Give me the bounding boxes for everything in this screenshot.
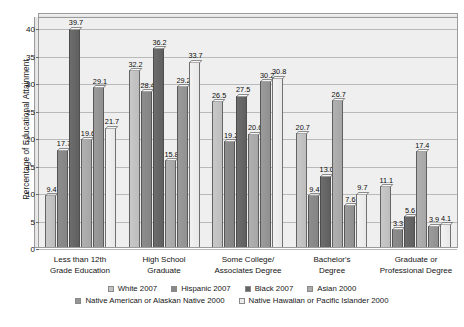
category-label-line: Graduate or bbox=[374, 255, 458, 266]
bar-group: 11.13.35.617.43.94.1 bbox=[373, 18, 457, 247]
bar-value-label: 3.9 bbox=[429, 216, 439, 223]
bar[interactable]: 9.7 bbox=[356, 194, 367, 247]
bar[interactable]: 15.8 bbox=[165, 160, 176, 247]
bar-value-label: 30.8 bbox=[272, 68, 286, 75]
y-axis-tick-mark bbox=[36, 249, 39, 250]
bar-slot: 26.5 bbox=[212, 18, 223, 247]
bar-group: 26.519.227.520.630.230.8 bbox=[206, 18, 290, 247]
bar-slot: 39.7 bbox=[69, 18, 80, 247]
x-axis-category-label: High SchoolGraduate bbox=[122, 255, 206, 281]
bar[interactable]: 13.0 bbox=[320, 176, 331, 248]
bar[interactable]: 9.4 bbox=[308, 195, 319, 247]
bar[interactable]: 39.7 bbox=[69, 29, 80, 247]
legend-swatch-icon bbox=[75, 298, 81, 304]
y-axis-tick-label: 30 bbox=[26, 80, 35, 89]
bar-slot: 9.4 bbox=[45, 18, 56, 247]
bar-slot: 4.1 bbox=[440, 18, 451, 247]
bar-slot: 20.7 bbox=[296, 18, 307, 247]
y-axis-tick-label: 35 bbox=[26, 52, 35, 61]
y-axis-tick-label: 0 bbox=[31, 245, 35, 254]
bar-slot: 33.7 bbox=[189, 18, 200, 247]
y-axis-tick-label: 40 bbox=[26, 25, 35, 34]
bar[interactable]: 5.6 bbox=[404, 216, 415, 247]
bar[interactable]: 17.4 bbox=[416, 151, 427, 247]
bar[interactable]: 20.7 bbox=[296, 133, 307, 247]
bar-slot: 20.6 bbox=[248, 18, 259, 247]
bar[interactable]: 26.5 bbox=[212, 101, 223, 247]
x-axis-category-label: Bachelor'sDegree bbox=[290, 255, 374, 281]
bar[interactable]: 21.7 bbox=[105, 128, 116, 247]
bar[interactable]: 33.7 bbox=[189, 62, 200, 247]
bar-groups: 9.417.739.719.629.121.732.228.436.215.82… bbox=[39, 18, 457, 247]
x-axis-category-label: Graduate orProfessional Degree bbox=[374, 255, 458, 281]
bar-value-label: 33.7 bbox=[188, 52, 202, 59]
legend-swatch-icon bbox=[171, 286, 177, 292]
bar-slot: 15.8 bbox=[165, 18, 176, 247]
bar-slot: 21.7 bbox=[105, 18, 116, 247]
legend-item[interactable]: Asian 2000 bbox=[307, 284, 356, 293]
bar-slot: 29.2 bbox=[177, 18, 188, 247]
bar-slot: 29.1 bbox=[93, 18, 104, 247]
category-label-line: Professional Degree bbox=[374, 266, 458, 277]
bar[interactable]: 17.7 bbox=[57, 150, 68, 247]
bar[interactable]: 29.2 bbox=[177, 86, 188, 247]
bar[interactable]: 3.9 bbox=[428, 226, 439, 247]
bar-slot: 11.1 bbox=[380, 18, 391, 247]
category-label-line: Degree bbox=[290, 266, 374, 277]
legend-item[interactable]: White 2007 bbox=[108, 284, 157, 293]
bar[interactable]: 30.2 bbox=[260, 81, 271, 247]
category-label-line: Grade Education bbox=[38, 266, 122, 277]
plot-area: 0510152025303540 9.417.739.719.629.121.7… bbox=[34, 13, 458, 252]
y-axis-tick-label: 15 bbox=[26, 162, 35, 171]
bar[interactable]: 29.1 bbox=[93, 87, 104, 247]
legend-item[interactable]: Black 2007 bbox=[245, 284, 294, 293]
bar-slot: 13.0 bbox=[320, 18, 331, 247]
legend-label: Hispanic 2007 bbox=[181, 284, 230, 293]
bar[interactable]: 27.5 bbox=[236, 96, 247, 247]
legend-item[interactable]: Native American or Alaskan Native 2000 bbox=[75, 296, 224, 305]
category-label-line: Some College/ bbox=[206, 255, 290, 266]
category-label-line: Associates Degree bbox=[206, 266, 290, 277]
bar[interactable]: 9.4 bbox=[45, 195, 56, 247]
bar-slot: 30.2 bbox=[260, 18, 271, 247]
legend-label: Native American or Alaskan Native 2000 bbox=[85, 296, 224, 305]
bar-slot: 32.2 bbox=[129, 18, 140, 247]
legend-swatch-icon bbox=[307, 286, 313, 292]
gridline bbox=[39, 249, 457, 250]
bar[interactable]: 4.1 bbox=[440, 224, 451, 247]
bar[interactable]: 7.6 bbox=[344, 205, 355, 247]
bar-slot: 3.3 bbox=[392, 18, 403, 247]
bar[interactable]: 19.2 bbox=[224, 141, 235, 247]
bar[interactable]: 11.1 bbox=[380, 186, 391, 247]
bar[interactable]: 36.2 bbox=[153, 48, 164, 247]
bar-slot: 19.2 bbox=[224, 18, 235, 247]
bar-value-label: 21.7 bbox=[105, 118, 119, 125]
legend-item[interactable]: Native Hawaiian or Pacific Islander 2000 bbox=[239, 296, 389, 305]
legend-row-primary: White 2007Hispanic 2007Black 2007Asian 2… bbox=[108, 284, 356, 293]
y-axis-tick-label: 5 bbox=[31, 217, 35, 226]
bar[interactable]: 19.6 bbox=[81, 139, 92, 247]
bar[interactable]: 30.8 bbox=[272, 78, 283, 247]
bar-slot: 17.7 bbox=[57, 18, 68, 247]
legend-label: White 2007 bbox=[118, 284, 157, 293]
bar[interactable]: 32.2 bbox=[129, 70, 140, 247]
legend-label: Black 2007 bbox=[255, 284, 294, 293]
category-label-line: High School bbox=[122, 255, 206, 266]
bar[interactable]: 26.7 bbox=[332, 100, 343, 247]
bar[interactable]: 28.4 bbox=[141, 91, 152, 247]
bar[interactable]: 3.3 bbox=[392, 229, 403, 247]
bar-slot: 28.4 bbox=[141, 18, 152, 247]
legend-label: Asian 2000 bbox=[317, 284, 356, 293]
legend-swatch-icon bbox=[245, 286, 251, 292]
plot-canvas: 0510152025303540 9.417.739.719.629.121.7… bbox=[38, 17, 458, 248]
bar-value-label: 7.6 bbox=[345, 196, 355, 203]
bar-slot: 36.2 bbox=[153, 18, 164, 247]
bar-slot: 3.9 bbox=[428, 18, 439, 247]
chart-legend: White 2007Hispanic 2007Black 2007Asian 2… bbox=[0, 284, 464, 305]
bar-slot: 27.5 bbox=[236, 18, 247, 247]
legend-item[interactable]: Hispanic 2007 bbox=[171, 284, 230, 293]
bar-value-label: 5.6 bbox=[405, 207, 415, 214]
bar[interactable]: 20.6 bbox=[248, 134, 259, 247]
bar-group: 9.417.739.719.629.121.7 bbox=[39, 18, 123, 247]
bar-slot: 30.8 bbox=[272, 18, 283, 247]
